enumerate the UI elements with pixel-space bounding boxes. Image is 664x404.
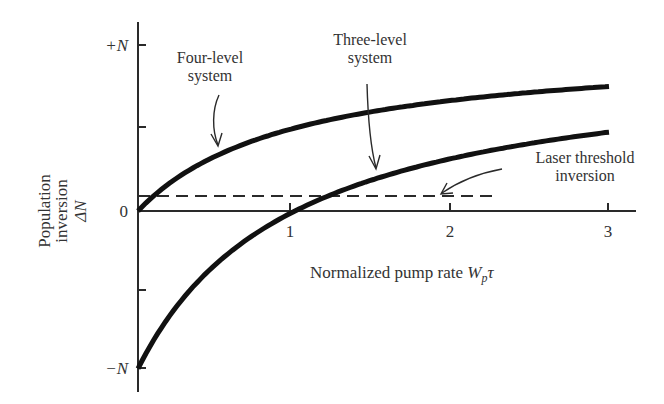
- y-axis-label-line3: ΔN: [71, 199, 90, 223]
- threshold-label-line2: inversion: [555, 167, 615, 184]
- x-axis-label-sub: p: [480, 271, 487, 285]
- x-tick-label-2: 2: [446, 222, 455, 241]
- three-level-arrow-icon: [367, 84, 376, 168]
- y-tick-label-minus-n: −N: [105, 359, 129, 378]
- y-tick-label-zero: 0: [120, 202, 129, 221]
- x-axis-label: Normalized pump rate Wpτ: [310, 263, 494, 285]
- three-level-curve: [138, 132, 609, 369]
- x-tick-label-1: 1: [286, 222, 295, 241]
- threshold-arrow-icon: [442, 169, 502, 193]
- four-level-label-line2: system: [188, 67, 233, 85]
- y-tick-label-plus-n: +N: [105, 36, 129, 55]
- y-axis-label-line2: inversion: [52, 179, 71, 243]
- four-level-arrow-icon: [214, 95, 219, 145]
- threshold-label-line1: Laser threshold: [535, 149, 634, 166]
- x-axis-label-main: Normalized pump rate: [310, 263, 467, 282]
- three-level-label-line1: Three-level: [333, 31, 407, 48]
- x-axis-label-tau: τ: [487, 263, 494, 282]
- y-axis-label: Population inversion ΔN: [35, 174, 90, 248]
- x-tick-label-3: 3: [604, 222, 613, 241]
- three-level-label-line2: system: [348, 49, 393, 67]
- four-level-label-line1: Four-level: [177, 49, 244, 66]
- population-inversion-chart: +N 0 −N 1 2 3 Population inversion ΔN No…: [0, 0, 664, 404]
